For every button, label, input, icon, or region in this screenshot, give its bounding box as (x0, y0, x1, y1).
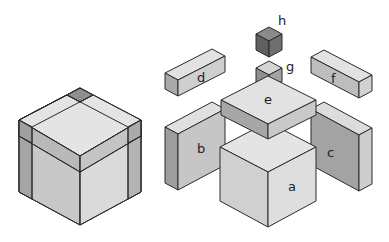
label-e: e (264, 92, 272, 107)
label-b: b (197, 141, 205, 156)
label-h: h (278, 13, 286, 28)
piece-c-right (359, 128, 372, 191)
piece-d: d (165, 49, 225, 96)
label-d: d (197, 70, 205, 85)
diagram-canvas: h g d f b c a (0, 0, 389, 242)
label-g: g (286, 59, 294, 74)
piece-e: e (221, 76, 316, 139)
assembled-cube (19, 88, 141, 225)
piece-b: b (165, 102, 225, 190)
label-a: a (288, 179, 296, 194)
label-c: c (327, 145, 334, 160)
piece-c: c (311, 102, 372, 191)
piece-h: h (256, 13, 286, 57)
piece-g: g (256, 59, 294, 82)
piece-f: f (311, 50, 372, 98)
label-f: f (331, 71, 336, 86)
puzzle-cube-diagram: h g d f b c a (0, 0, 389, 242)
piece-b-left (165, 127, 178, 190)
